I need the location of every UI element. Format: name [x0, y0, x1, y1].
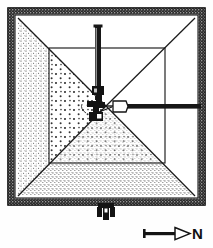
north-label: N — [192, 226, 203, 241]
north-arrow-shaft — [145, 232, 177, 235]
pyramid-plan-drawing — [0, 0, 213, 248]
corridor-antechamber — [113, 101, 128, 112]
figure-canvas: N — [0, 0, 213, 248]
